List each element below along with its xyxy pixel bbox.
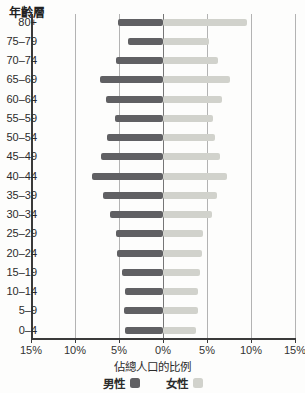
x-axis-tick-label: 5%	[187, 344, 227, 356]
bar-male	[124, 307, 163, 314]
legend-item-female: 女性	[166, 375, 203, 391]
bar-male	[115, 115, 163, 122]
bar-male	[116, 230, 163, 237]
x-axis-tick-label: 5%	[99, 344, 139, 356]
age-label: 25–29	[0, 228, 37, 239]
bar-male	[106, 96, 163, 103]
x-axis-tick-label: 0%	[143, 344, 183, 356]
bar-male	[101, 153, 163, 160]
bar-female	[163, 327, 196, 334]
bar-female	[163, 38, 209, 45]
bar-female	[163, 173, 227, 180]
x-axis-tick	[207, 338, 208, 343]
population-pyramid-chart: 年齡層 80+75–7970–7465–6960–6455–5950–5445–…	[0, 0, 305, 393]
x-axis-tick	[119, 338, 120, 343]
age-label: 35–39	[0, 190, 37, 201]
x-axis-tick	[295, 338, 296, 343]
legend-swatch-female	[193, 378, 203, 388]
age-label: 50–54	[0, 132, 37, 143]
bar-female	[163, 153, 220, 160]
gridline	[295, 14, 296, 338]
x-axis-title: 佔總人口的比例	[0, 358, 305, 374]
age-label: 15–19	[0, 267, 37, 278]
age-label: 60–64	[0, 94, 37, 105]
bar-female	[163, 192, 217, 199]
legend: 男性 女性	[0, 375, 305, 391]
bar-female	[163, 96, 222, 103]
bar-female	[163, 76, 230, 83]
age-label: 75–79	[0, 36, 37, 47]
bar-male	[122, 269, 163, 276]
age-label: 30–34	[0, 209, 37, 220]
bar-female	[163, 307, 198, 314]
x-axis-tick	[31, 338, 32, 343]
legend-swatch-male	[130, 378, 140, 388]
bar-male	[103, 192, 163, 199]
bar-male	[92, 173, 163, 180]
x-axis-tick	[75, 338, 76, 343]
bar-female	[163, 211, 212, 218]
gridline	[75, 14, 76, 338]
x-axis-tick-label: 15%	[11, 344, 51, 356]
bar-female	[163, 230, 203, 237]
bar-male	[118, 19, 163, 26]
age-label: 70–74	[0, 55, 37, 66]
legend-label-female: 女性	[166, 375, 188, 391]
bar-male	[125, 327, 163, 334]
bar-female	[163, 134, 215, 141]
bar-female	[163, 19, 247, 26]
age-label: 10–14	[0, 286, 37, 297]
bar-male	[110, 211, 163, 218]
bar-male	[117, 250, 163, 257]
x-axis-tick-label: 15%	[275, 344, 305, 356]
x-axis-tick	[163, 338, 164, 343]
age-label: 5–9	[0, 305, 37, 316]
bar-male	[125, 288, 163, 295]
bar-female	[163, 115, 213, 122]
x-axis-tick-label: 10%	[231, 344, 271, 356]
age-label: 55–59	[0, 113, 37, 124]
bar-male	[107, 134, 163, 141]
age-label: 80+	[0, 17, 37, 28]
x-axis-tick-label: 10%	[55, 344, 95, 356]
legend-item-male: 男性	[103, 375, 140, 391]
bar-female	[163, 250, 202, 257]
age-label: 45–49	[0, 151, 37, 162]
gridline	[251, 14, 252, 338]
bar-female	[163, 57, 218, 64]
age-label: 65–69	[0, 74, 37, 85]
x-axis-tick	[251, 338, 252, 343]
bar-male	[116, 57, 163, 64]
bar-female	[163, 269, 200, 276]
age-label: 0–4	[0, 325, 37, 336]
legend-label-male: 男性	[103, 375, 125, 391]
bar-male	[100, 76, 163, 83]
bar-male	[128, 38, 163, 45]
bar-female	[163, 288, 198, 295]
age-label: 20–24	[0, 248, 37, 259]
age-label: 40–44	[0, 171, 37, 182]
